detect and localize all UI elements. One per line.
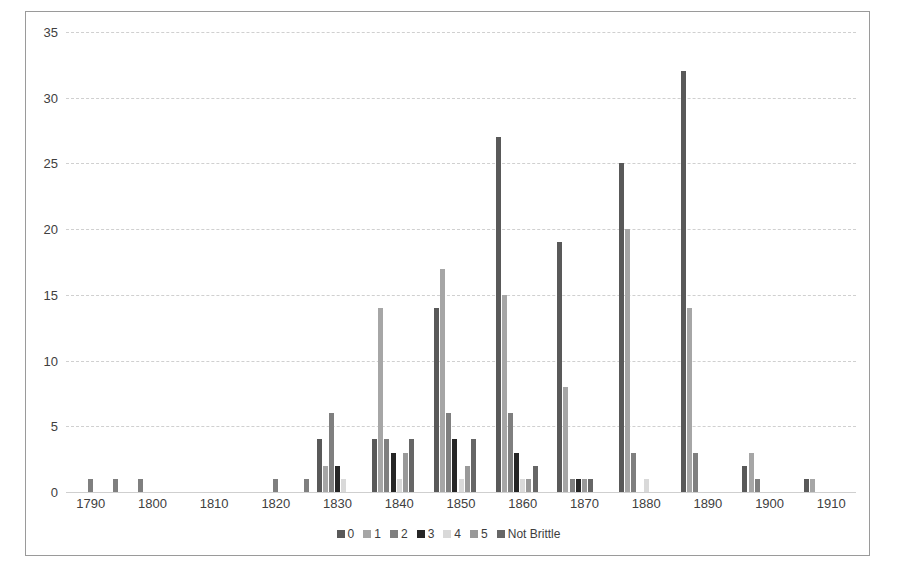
x-axis-tick-label: 1870 bbox=[570, 496, 599, 511]
bar bbox=[520, 479, 525, 492]
bar bbox=[409, 439, 414, 492]
legend-swatch-icon bbox=[363, 530, 371, 538]
y-axis-tick-labels: 05101520253035 bbox=[26, 32, 66, 492]
y-axis-tick-label: 5 bbox=[51, 419, 58, 434]
bar bbox=[588, 479, 593, 492]
bar bbox=[397, 479, 402, 492]
y-axis-tick-label: 10 bbox=[44, 353, 58, 368]
bar bbox=[749, 453, 754, 492]
legend-label: 5 bbox=[481, 527, 488, 541]
legend-label: 4 bbox=[454, 527, 461, 541]
legend-label: 0 bbox=[348, 527, 355, 541]
bar bbox=[434, 308, 439, 492]
bar bbox=[384, 439, 389, 492]
bar bbox=[304, 479, 309, 492]
bar bbox=[372, 439, 377, 492]
bar bbox=[742, 466, 747, 492]
chart-legend: 012345Not Brittle bbox=[26, 527, 871, 541]
bar bbox=[391, 453, 396, 492]
chart-frame: 05101520253035 1790180018101820183018401… bbox=[25, 11, 870, 556]
bar bbox=[335, 466, 340, 492]
bar bbox=[273, 479, 278, 492]
bar bbox=[810, 479, 815, 492]
legend-item[interactable]: 4 bbox=[443, 527, 461, 541]
legend-swatch-icon bbox=[337, 530, 345, 538]
x-axis-tick-label: 1900 bbox=[755, 496, 784, 511]
bar bbox=[440, 269, 445, 492]
x-axis-line bbox=[66, 492, 856, 493]
legend-item[interactable]: 1 bbox=[363, 527, 381, 541]
bar bbox=[113, 479, 118, 492]
bar bbox=[755, 479, 760, 492]
x-axis-tick-label: 1890 bbox=[693, 496, 722, 511]
bar bbox=[570, 479, 575, 492]
bar bbox=[446, 413, 451, 492]
y-axis-tick-label: 15 bbox=[44, 287, 58, 302]
x-axis-tick-label: 1810 bbox=[200, 496, 229, 511]
x-axis-tick-label: 1840 bbox=[385, 496, 414, 511]
bar bbox=[514, 453, 519, 492]
x-axis-tick-label: 1820 bbox=[261, 496, 290, 511]
x-axis-tick-label: 1800 bbox=[138, 496, 167, 511]
legend-item[interactable]: Not Brittle bbox=[497, 527, 561, 541]
x-axis-tick-label: 1830 bbox=[323, 496, 352, 511]
y-axis-tick-label: 30 bbox=[44, 90, 58, 105]
y-axis-tick-label: 35 bbox=[44, 25, 58, 40]
x-axis-tick-label: 1880 bbox=[632, 496, 661, 511]
bar bbox=[644, 479, 649, 492]
bar bbox=[465, 466, 470, 492]
bar bbox=[403, 453, 408, 492]
plot-area bbox=[66, 32, 856, 492]
legend-label: 2 bbox=[401, 527, 408, 541]
bar bbox=[526, 479, 531, 492]
bar bbox=[471, 439, 476, 492]
legend-swatch-icon bbox=[497, 530, 505, 538]
bar bbox=[693, 453, 698, 492]
y-axis-tick-label: 25 bbox=[44, 156, 58, 171]
legend-swatch-icon bbox=[470, 530, 478, 538]
bar bbox=[459, 479, 464, 492]
bar bbox=[323, 466, 328, 492]
bar bbox=[619, 163, 624, 492]
bar bbox=[502, 295, 507, 492]
legend-label: Not Brittle bbox=[508, 527, 561, 541]
legend-item[interactable]: 0 bbox=[337, 527, 355, 541]
bar bbox=[88, 479, 93, 492]
legend-item[interactable]: 2 bbox=[390, 527, 408, 541]
bar bbox=[804, 479, 809, 492]
bar bbox=[631, 453, 636, 492]
legend-label: 3 bbox=[428, 527, 435, 541]
bar bbox=[496, 137, 501, 492]
bar bbox=[329, 413, 334, 492]
bar bbox=[138, 479, 143, 492]
y-axis-tick-label: 20 bbox=[44, 222, 58, 237]
x-axis-tick-label: 1850 bbox=[447, 496, 476, 511]
legend-swatch-icon bbox=[443, 530, 451, 538]
legend-item[interactable]: 3 bbox=[417, 527, 435, 541]
x-axis-tick-label: 1860 bbox=[508, 496, 537, 511]
bar bbox=[341, 479, 346, 492]
bar-series-container bbox=[66, 32, 856, 492]
bar bbox=[687, 308, 692, 492]
legend-swatch-icon bbox=[417, 530, 425, 538]
bar bbox=[557, 242, 562, 492]
bar bbox=[563, 387, 568, 492]
bar bbox=[452, 439, 457, 492]
bar bbox=[317, 439, 322, 492]
bar bbox=[681, 71, 686, 492]
bar bbox=[582, 479, 587, 492]
bar bbox=[625, 229, 630, 492]
x-axis-tick-labels: 1790180018101820183018401850186018701880… bbox=[66, 496, 856, 518]
y-axis-tick-label: 0 bbox=[51, 485, 58, 500]
legend-item[interactable]: 5 bbox=[470, 527, 488, 541]
legend-swatch-icon bbox=[390, 530, 398, 538]
bar bbox=[533, 466, 538, 492]
legend-label: 1 bbox=[374, 527, 381, 541]
x-axis-tick-label: 1790 bbox=[76, 496, 105, 511]
x-axis-tick-label: 1910 bbox=[817, 496, 846, 511]
bar bbox=[576, 479, 581, 492]
bar bbox=[378, 308, 383, 492]
bar bbox=[508, 413, 513, 492]
